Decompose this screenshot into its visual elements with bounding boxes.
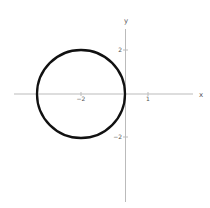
x-tick-label-1: 1 (146, 95, 150, 102)
x-axis-label: x (199, 91, 203, 99)
y-tick-label-2: 2 (118, 46, 122, 53)
y-tick-label-neg2: −2 (113, 133, 122, 140)
plot-canvas: −2 1 2 −2 x y (0, 0, 210, 208)
y-axis-label: y (124, 17, 128, 25)
x-tick-label-neg2: −2 (77, 95, 86, 102)
